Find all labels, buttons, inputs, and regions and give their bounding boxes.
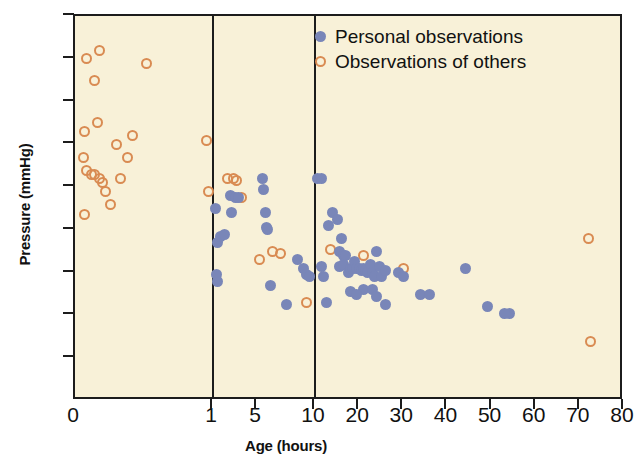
data-point <box>254 254 265 265</box>
data-point <box>332 214 343 225</box>
x-tick-mark <box>312 399 314 409</box>
scatter-chart-figure: Pressure (mmHg) Age (hours) 102030405060… <box>0 0 635 462</box>
x-tick-mark <box>400 399 402 409</box>
data-point <box>105 199 116 210</box>
data-point <box>260 207 271 218</box>
data-point <box>316 173 327 184</box>
data-point <box>219 229 230 240</box>
x-tick-mark <box>621 399 623 409</box>
data-point <box>81 53 92 64</box>
data-point <box>398 271 409 282</box>
data-point <box>424 289 435 300</box>
data-point <box>210 203 221 214</box>
data-point <box>318 271 329 282</box>
x-axis-title: Age (hours) <box>245 437 327 454</box>
x-tick-mark <box>533 399 535 409</box>
legend-marker-open-circle-icon <box>315 56 326 67</box>
data-point <box>201 135 212 146</box>
y-axis-title: Pressure (mmHg) <box>16 95 33 315</box>
x-tick-mark <box>489 399 491 409</box>
data-point <box>336 233 347 244</box>
x-tick-mark <box>254 399 256 409</box>
data-point <box>231 175 242 186</box>
data-point <box>281 299 292 310</box>
data-point <box>316 261 327 272</box>
x-tick-mark <box>356 399 358 409</box>
data-point <box>94 45 105 56</box>
legend-item-others: Observations of others <box>315 49 526 74</box>
data-point <box>100 186 111 197</box>
data-point <box>380 265 391 276</box>
data-point <box>258 184 269 195</box>
data-point <box>262 224 273 235</box>
data-point <box>89 75 100 86</box>
data-point <box>301 297 312 308</box>
x-tick-mark <box>444 399 446 409</box>
data-point <box>351 289 362 300</box>
data-point <box>585 336 596 347</box>
data-point <box>265 280 276 291</box>
data-point <box>226 207 237 218</box>
x-tick-mark <box>210 399 212 409</box>
data-point <box>79 209 90 220</box>
data-point <box>78 152 89 163</box>
data-point <box>127 130 138 141</box>
chart-legend: Personal observations Observations of ot… <box>315 24 526 74</box>
data-point <box>257 173 268 184</box>
legend-marker-filled-circle-icon <box>315 31 326 42</box>
data-point <box>111 139 122 150</box>
data-point <box>122 152 133 163</box>
legend-label-others: Observations of others <box>335 51 526 73</box>
data-point <box>482 301 493 312</box>
legend-label-personal: Personal observations <box>335 26 523 48</box>
data-point <box>115 173 126 184</box>
data-point <box>141 58 152 69</box>
data-point <box>92 117 103 128</box>
x-tick-label: 80 <box>602 404 635 425</box>
data-point <box>212 276 223 287</box>
data-point <box>460 263 471 274</box>
data-point <box>583 233 594 244</box>
data-point <box>380 299 391 310</box>
x-tick-label: 0 <box>53 404 93 425</box>
data-point <box>371 246 382 257</box>
legend-item-personal: Personal observations <box>315 24 526 49</box>
x-tick-mark <box>577 399 579 409</box>
data-point <box>321 297 332 308</box>
data-point <box>79 126 90 137</box>
data-point <box>275 248 286 259</box>
